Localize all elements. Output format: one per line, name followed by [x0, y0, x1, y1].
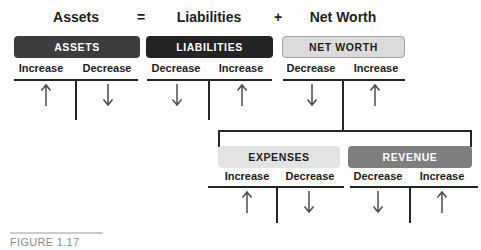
up-arrow-icon: [240, 189, 254, 215]
expenses-header-label: EXPENSES: [248, 151, 309, 163]
revenue-header-label: REVENUE: [383, 151, 438, 163]
up-arrow-icon: [39, 82, 53, 108]
connector-bracket-left: [218, 130, 220, 147]
revenue-right-label: Increase: [420, 170, 465, 182]
liabilities-header-box: LIABILITIES: [146, 36, 273, 58]
down-arrow-icon: [101, 82, 115, 108]
plus-sign: +: [274, 9, 282, 25]
revenue-t-account-line: [350, 186, 478, 188]
caption-rule: [10, 232, 103, 234]
net-worth-header-box: NET WORTH: [282, 36, 405, 58]
up-arrow-icon: [368, 82, 382, 108]
expenses-t-account-divider: [276, 186, 278, 223]
connector-bracket-top: [218, 130, 472, 132]
assets-header-label: ASSETS: [54, 41, 100, 53]
connector-bracket-right: [470, 130, 472, 147]
up-arrow-icon: [435, 189, 449, 215]
accounting-equation-diagram: Assets = Liabilities + Net Worth ASSETS …: [0, 0, 481, 250]
down-arrow-icon: [170, 82, 184, 108]
assets-t-account-divider: [75, 79, 77, 120]
equation-term-assets: Assets: [53, 9, 99, 25]
down-arrow-icon: [305, 82, 319, 108]
assets-left-label: Increase: [19, 62, 64, 74]
down-arrow-icon: [371, 189, 385, 215]
assets-header-box: ASSETS: [14, 36, 140, 58]
expenses-header-box: EXPENSES: [218, 146, 340, 168]
revenue-left-label: Decrease: [354, 170, 403, 182]
net-worth-t-account-divider: [342, 79, 344, 132]
up-arrow-icon: [235, 82, 249, 108]
equals-sign: =: [137, 9, 145, 25]
liabilities-right-label: Increase: [219, 62, 264, 74]
net-worth-left-label: Decrease: [287, 62, 336, 74]
figure-caption: FIGURE 1.17: [10, 236, 79, 248]
equation-term-net-worth: Net Worth: [310, 9, 377, 25]
expenses-right-label: Decrease: [286, 170, 335, 182]
liabilities-header-label: LIABILITIES: [176, 41, 243, 53]
liabilities-t-account-divider: [208, 79, 210, 120]
liabilities-left-label: Decrease: [152, 62, 201, 74]
net-worth-right-label: Increase: [354, 62, 399, 74]
equation-term-liabilities: Liabilities: [177, 9, 242, 25]
net-worth-t-account-line: [283, 79, 405, 81]
revenue-header-box: REVENUE: [348, 146, 472, 168]
down-arrow-icon: [302, 189, 316, 215]
assets-right-label: Decrease: [83, 62, 132, 74]
net-worth-header-label: NET WORTH: [309, 41, 378, 53]
expenses-left-label: Increase: [225, 170, 270, 182]
revenue-t-account-divider: [409, 186, 411, 223]
